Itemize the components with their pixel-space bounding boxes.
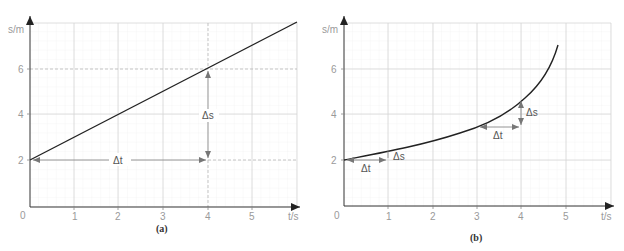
x-axis-label: t/s	[288, 211, 299, 222]
figure: Δt Δs 2 4 6 0 1 2 3 4 5 t/s s/m (a)	[0, 0, 624, 251]
minor-grid	[344, 23, 611, 207]
chart-a: Δt Δs 2 4 6 0 1 2 3 4 5 t/s s/m (a)	[8, 16, 300, 235]
x-tick-label: 2	[430, 211, 436, 222]
y-tick-label: 2	[18, 155, 24, 166]
x-tick-label: 4	[518, 211, 524, 222]
y-tick-label: 2	[331, 155, 337, 166]
delta-s-label: Δs	[393, 151, 405, 162]
caption-a: (a)	[156, 223, 168, 235]
x-tick-label: 3	[160, 211, 166, 222]
x-tick-label: 3	[474, 211, 480, 222]
delta-s-label: Δs	[202, 110, 214, 121]
x-tick-label: 4	[205, 211, 211, 222]
y-tick-label: 4	[331, 109, 337, 120]
delta-s-label: Δs	[526, 107, 538, 118]
origin-label: 0	[334, 210, 340, 221]
delta-t-label: Δt	[493, 130, 503, 141]
x-tick-label: 5	[249, 211, 255, 222]
y-tick-label: 6	[331, 64, 337, 75]
x-tick-label: 1	[386, 211, 392, 222]
x-tick-label: 1	[72, 211, 78, 222]
x-axis-label: t/s	[601, 211, 612, 222]
minor-grid	[30, 23, 297, 207]
delta-t-label: Δt	[361, 163, 371, 174]
y-axis-label: s/m	[8, 24, 24, 35]
chart-b: Δt Δs Δt Δs 2 4 6 0 1 2 3 4 5 t/s s/m (b…	[322, 16, 614, 244]
x-tick-label: 5	[563, 211, 569, 222]
y-tick-label: 4	[18, 109, 24, 120]
y-axis-label: s/m	[322, 24, 338, 35]
y-tick-label: 6	[18, 64, 24, 75]
origin-label: 0	[20, 210, 26, 221]
delta-t-label: Δt	[113, 155, 123, 166]
x-tick-label: 2	[115, 211, 121, 222]
caption-b: (b)	[470, 232, 482, 244]
